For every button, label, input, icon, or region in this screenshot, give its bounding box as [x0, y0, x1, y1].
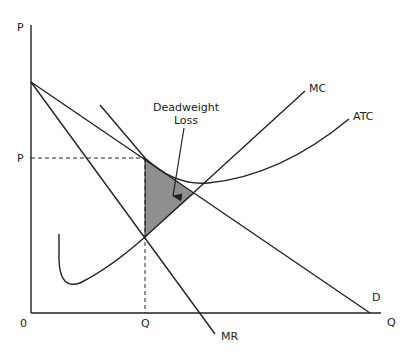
origin-label: 0	[20, 317, 27, 330]
demand-label: D	[372, 291, 380, 304]
price-tick-label: P	[17, 152, 24, 165]
mr-label: MR	[221, 330, 238, 343]
x-axis-label: Q	[387, 316, 396, 329]
y-axis-label: P	[17, 21, 24, 34]
quantity-tick-label: Q	[141, 317, 150, 330]
mc-label: MC	[309, 82, 326, 95]
atc-label: ATC	[353, 110, 374, 123]
deadweight-label-line1: Deadweight	[153, 101, 220, 114]
deadweight-loss-area	[145, 158, 194, 237]
average-total-cost-curve	[100, 105, 349, 183]
demand-curve	[31, 82, 370, 313]
deadweight-label-line2: Loss	[174, 114, 198, 127]
monopoly-diagram: P P 0 Q Q MC ATC D MR Deadweight Loss	[0, 0, 413, 357]
